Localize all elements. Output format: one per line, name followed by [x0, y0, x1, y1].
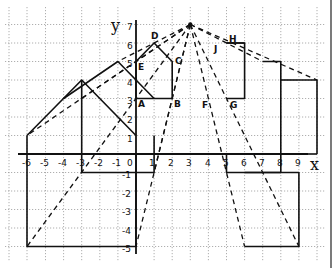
- label-B: B: [174, 99, 181, 109]
- label-D: D: [151, 31, 158, 41]
- svg-text:7: 7: [127, 22, 133, 32]
- label-C: C: [175, 56, 182, 66]
- svg-text:4: 4: [205, 158, 211, 168]
- grid-lines: [5, 7, 325, 262]
- svg-text:9: 9: [295, 158, 301, 168]
- svg-text:-3: -3: [76, 158, 85, 168]
- svg-text:-5: -5: [122, 244, 131, 254]
- svg-text:-4: -4: [122, 226, 131, 236]
- svg-text:-5: -5: [40, 158, 49, 168]
- svg-text:6: 6: [127, 41, 133, 51]
- svg-text:7: 7: [259, 158, 265, 168]
- label-F: F: [202, 100, 208, 110]
- svg-text:0: 0: [127, 158, 133, 168]
- svg-text:2: 2: [127, 115, 133, 125]
- enlargement-rays: [27, 25, 317, 247]
- svg-text:1: 1: [127, 134, 133, 144]
- svg-text:-1: -1: [122, 170, 131, 180]
- svg-text:6: 6: [241, 158, 247, 168]
- svg-text:2: 2: [168, 158, 174, 168]
- svg-text:-3: -3: [122, 207, 131, 217]
- svg-text:-2: -2: [94, 158, 103, 168]
- label-A: A: [138, 99, 145, 109]
- svg-text:-2: -2: [122, 189, 131, 199]
- label-J: J: [213, 44, 217, 54]
- svg-text:3: 3: [186, 158, 192, 168]
- y-axis-label: y: [110, 16, 120, 35]
- x-axis-label: x: [310, 155, 319, 174]
- svg-text:-4: -4: [58, 158, 67, 168]
- label-G: G: [230, 100, 237, 110]
- label-E: E: [138, 62, 144, 72]
- y-tick-labels: 1 2 3 4 5 6 7 -1 -2 -3 -4 -5: [122, 22, 133, 254]
- svg-text:4: 4: [127, 78, 133, 88]
- graph-paper-diagram: x y -6 -5 -4 -3 -2 -1 0 1 2 3 4 5 6 7 8 …: [0, 0, 333, 268]
- svg-text:-1: -1: [112, 158, 121, 168]
- label-H: H: [229, 34, 237, 44]
